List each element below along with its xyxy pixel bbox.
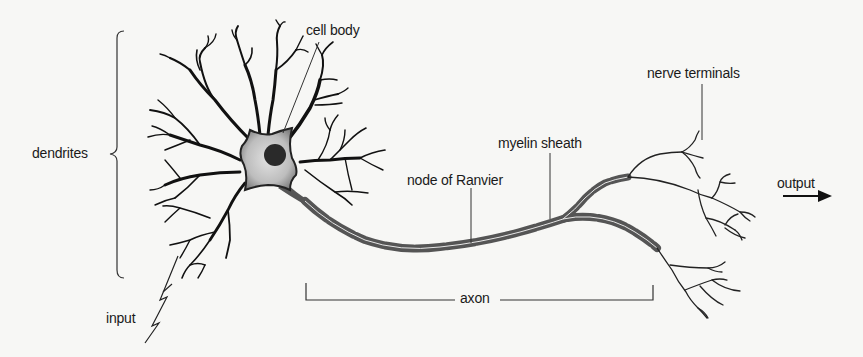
leader-lines xyxy=(283,42,702,243)
label-input: input xyxy=(106,310,135,326)
label-node-of-ranvier: node of Ranvier xyxy=(407,172,503,188)
nerve-terminals xyxy=(628,131,755,318)
input-lightning-icon xyxy=(145,256,178,343)
label-nerve-terminals: nerve terminals xyxy=(647,65,740,81)
label-axon: axon xyxy=(460,290,490,306)
label-cell-body: cell body xyxy=(306,22,359,38)
label-myelin-sheath: myelin sheath xyxy=(498,135,582,151)
output-arrow-icon xyxy=(783,190,832,202)
nucleus xyxy=(264,144,286,166)
label-dendrites: dendrites xyxy=(32,145,88,161)
label-output: output xyxy=(777,175,815,191)
dendrites-bracket xyxy=(110,31,124,278)
